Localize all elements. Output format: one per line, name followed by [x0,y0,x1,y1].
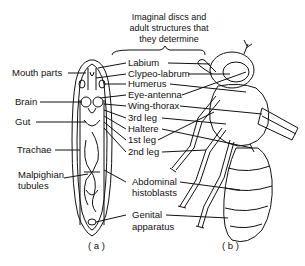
larva-malpighian-tubules [84,172,100,195]
fly-leg-mid [180,128,226,208]
label-wing-thorax: Wing-thorax [128,101,179,111]
label-haltere: Haltere [128,124,159,134]
label-1st-leg: 1st leg [128,135,156,145]
caption-a: ( a ) [88,240,105,251]
label-3rd-leg: 3rd leg [128,113,157,123]
header-line-3: they determine [114,34,224,44]
larva-brain-lobe [81,97,91,107]
fly-wing [258,108,298,140]
larva-figure [72,60,112,236]
header-brace [112,46,205,55]
larva-inner-outline [77,64,107,230]
label-genital-2: apparatus [132,222,174,232]
larva-body-outline [72,60,112,236]
label-trachae: Trachae [17,145,52,155]
caption-b: ( b ) [222,240,239,251]
fly-leg-hind [198,140,234,228]
label-malpighian-1: Malpighian [18,170,64,180]
label-malpighian-2: tubules [18,181,49,191]
larva-ventral-ganglion [88,108,96,113]
larva-trachea [80,100,104,225]
header-line-2: adult structures that [114,23,224,33]
larva-brain-lobe [93,97,103,107]
fly-antenna [244,40,252,54]
label-genital-1: Genital [132,210,162,220]
header-line-1: Imaginal discs and [114,12,224,22]
larva-mouth-hooks [88,68,96,90]
label-brain: Brain [15,97,37,107]
fly-proboscis [198,60,216,75]
larva-gut [84,120,100,212]
label-2nd-leg: 2nd leg [128,147,159,157]
label-eye-antenna: Eye-antenna [128,90,182,100]
label-abdominal-2: histoblasts [132,188,177,198]
larva-genital-disc [88,219,96,225]
label-mouth-parts: Mouth parts [12,68,62,78]
label-gut: Gut [15,117,30,127]
label-humerus: Humerus [128,79,167,89]
leader-lines-center-larva [96,63,126,222]
label-labium: Labium [128,58,159,68]
fly-abdomen-segment [225,166,272,228]
label-abdominal-1: Abdominal [132,177,177,187]
